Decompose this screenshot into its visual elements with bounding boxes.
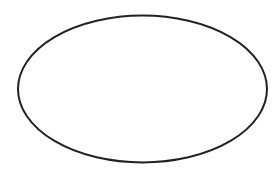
ellipse-shape [18, 16, 267, 163]
diagram-svg [0, 0, 280, 169]
diagram-canvas [0, 0, 280, 169]
